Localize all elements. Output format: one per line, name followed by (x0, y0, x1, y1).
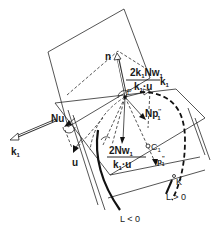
k1-sub: 1 (17, 152, 21, 158)
nu-arrow-head (64, 120, 72, 127)
np-sub: 1 (157, 115, 161, 121)
frac-top-num-a: 2k (130, 67, 142, 78)
plane-edge (108, 170, 205, 198)
np-vector-line (125, 97, 143, 117)
circle-arc-dashed-left (90, 97, 125, 150)
nu-half-circle (63, 127, 75, 133)
label-frac-top-num: 2k1Nw1 (130, 67, 163, 79)
ray-arrow-head (120, 137, 125, 144)
point-c1 (146, 144, 150, 148)
label-np: Np''1 (145, 108, 162, 121)
label-frac-top-den: k1·u (134, 81, 152, 93)
label-frac-bot-den: k1·u (113, 159, 131, 171)
label-k-point: K (176, 177, 182, 187)
frac-top-suffix-sub: 1 (166, 82, 170, 88)
label-u: u (72, 157, 78, 168)
point-p (123, 95, 127, 99)
c1-sub: 1 (158, 147, 162, 153)
n-arrow-head (114, 53, 121, 60)
u-arrow-head (73, 145, 79, 153)
frac-top-num-b: Nw (144, 67, 159, 78)
label-p1: p''1 (157, 155, 165, 167)
frac-bot-den-b: ·u (122, 159, 131, 170)
label-p: P (127, 88, 132, 95)
label-frac-bot-num: 2Nw1 (109, 145, 134, 157)
label-k1: k1 (11, 146, 21, 158)
label-l-positive: L > 0 (166, 192, 186, 202)
k1-arrow-head (10, 133, 19, 140)
label-frac-top-suffix: k1 (160, 76, 170, 88)
geometry-diagram: n 2k1Nw1 k1·u k1 P Np''1 Nu k1 u 2Nw1 k1… (0, 0, 220, 239)
frac-bot-num-sub: 1 (130, 151, 134, 157)
plane-edge (195, 118, 210, 160)
frac-bot-num-a: 2Nw (109, 145, 130, 156)
label-n: n (105, 51, 111, 62)
label-l-negative: L < 0 (120, 214, 140, 224)
label-c1: C1 (151, 142, 162, 153)
label-nu: Nu (51, 113, 64, 124)
frac-top-den-b: ·u (143, 81, 152, 92)
np-sup: '' (158, 108, 161, 114)
n-vector-inner (118, 60, 126, 97)
p1-sub: 1 (162, 161, 165, 167)
